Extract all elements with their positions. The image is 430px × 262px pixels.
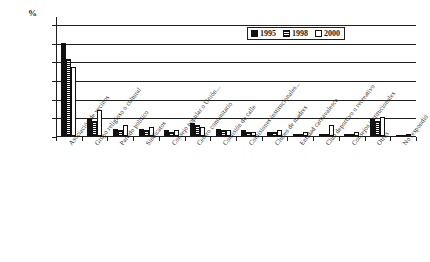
x-tick-mark [210,137,211,141]
y-tick-mark-50 [52,44,57,45]
y-axis-unit-label: % [28,8,37,18]
x-tick-mark [133,137,134,141]
x-tick-mark [339,137,340,141]
legend-label: 1998 [292,29,308,38]
y-tick-mark-30 [52,81,57,82]
legend-item: 1995 [251,29,276,38]
y-tick-mark-20 [52,100,57,101]
bar-chart-figure: % 0102030405060 199519982000 Asociación … [0,0,430,262]
x-tick-mark [365,137,366,141]
x-tick-mark [185,137,186,141]
legend-swatch-icon [251,30,258,37]
y-tick-mark-40 [52,62,57,63]
x-tick-mark [236,137,237,141]
y-tick-mark-60 [52,25,57,26]
x-tick-mark [56,137,57,141]
x-tick-mark [262,137,263,141]
x-tick-mark [107,137,108,141]
y-tick-mark-10 [52,118,57,119]
legend-label: 1995 [260,29,276,38]
legend-swatch-icon [315,30,322,37]
gridline-40 [56,62,416,63]
gridline-50 [56,44,416,45]
x-tick-mark [313,137,314,141]
x-tick-mark [416,137,417,141]
bar-group [61,43,76,136]
gridline-60 [56,25,416,26]
chart-legend: 199519982000 [247,27,345,40]
x-tick-mark [82,137,83,141]
gridline-30 [56,81,416,82]
x-tick-mark [287,137,288,141]
legend-item: 1998 [283,29,308,38]
legend-label: 2000 [324,29,340,38]
legend-swatch-icon [283,30,290,37]
x-tick-mark [159,137,160,141]
legend-item: 2000 [315,29,340,38]
x-tick-mark [390,137,391,141]
bar-2000 [71,67,76,136]
